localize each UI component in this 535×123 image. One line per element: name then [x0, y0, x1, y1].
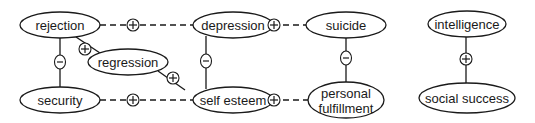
plus-sign-icon [167, 72, 179, 84]
node-regression: regression [88, 49, 168, 75]
plus-sign-icon [127, 94, 139, 106]
node-label-line1: personal [321, 86, 371, 101]
node-label: security [38, 93, 83, 108]
node-label-line2: fulfillment [319, 101, 374, 116]
node-personal-fulfillment: personal fulfillment [308, 82, 384, 118]
node-intelligence: intelligence [428, 11, 506, 37]
minus-sign-icon [55, 55, 66, 69]
plus-sign-icon [79, 43, 91, 55]
plus-sign-icon [268, 94, 280, 106]
node-depression: depression [193, 12, 273, 38]
node-suicide: suicide [306, 12, 386, 38]
node-rejection: rejection [20, 12, 100, 38]
plus-sign-icon [127, 19, 139, 31]
node-label: rejection [35, 18, 84, 33]
node-label: self esteem [200, 93, 266, 108]
causal-diagram: rejection security regression depression… [0, 0, 535, 123]
node-label: intelligence [434, 17, 499, 32]
node-self-esteem: self esteem [193, 87, 273, 113]
plus-sign-icon [268, 19, 280, 31]
minus-sign-icon [341, 51, 352, 65]
node-label: regression [98, 55, 159, 70]
plus-sign-icon [460, 53, 472, 65]
node-label: depression [201, 18, 265, 33]
node-label: social success [425, 91, 509, 106]
minus-sign-icon [201, 54, 212, 68]
node-social-success: social success [419, 83, 515, 113]
node-label: suicide [326, 18, 366, 33]
node-security: security [20, 87, 100, 113]
